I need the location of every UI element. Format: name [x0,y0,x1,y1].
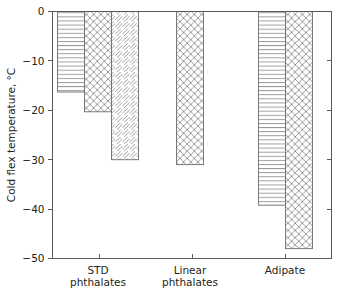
y-tick-label: −10 [22,55,44,67]
bars-layer [58,12,313,249]
y-tick-label: −40 [22,203,44,215]
category-label-line: phthalates [70,276,126,288]
bar [58,12,85,93]
bar [259,12,286,206]
category-label-line: STD [87,264,108,276]
y-tick-label: −20 [22,104,44,116]
y-tick-label: −50 [22,252,44,264]
category-label-line: phthalates [162,276,218,288]
y-tick-label: −30 [22,154,44,166]
y-tick-label: 0 [38,5,45,17]
category-label-line: Linear [174,264,207,276]
bar [112,12,139,160]
x-axis-ticks [99,254,285,259]
bar [85,12,112,112]
bar-chart-canvas: 0−10−20−30−40−50 STDphthalatesLinearphth… [0,0,344,292]
category-labels: STDphthalatesLinearphthalatesAdipate [70,264,305,288]
category-label-line: Adipate [265,264,305,276]
bar [177,12,204,165]
y-axis-title: Cold flex temperature, °C [5,68,17,202]
bar [286,12,313,249]
chart-figure: 0−10−20−30−40−50 STDphthalatesLinearphth… [0,0,344,292]
